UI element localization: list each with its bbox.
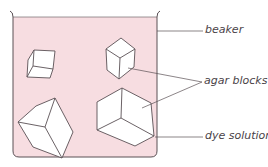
beaker-label: beaker	[205, 24, 243, 36]
agar-blocks-label: agar blocks	[204, 75, 267, 87]
dye-solution-label: dye solution	[205, 130, 268, 142]
agar-block-small	[27, 50, 55, 78]
